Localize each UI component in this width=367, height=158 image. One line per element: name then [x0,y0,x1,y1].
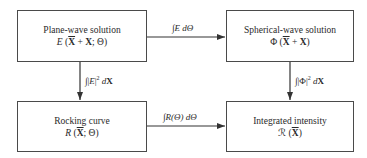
spherical-wave-solution-box: Spherical-wave solution Φ (X + X) [226,10,354,62]
box-title: Integrated intensity [253,115,327,127]
plane-wave-solution-box: Plane-wave solution E (X + X; Θ) [17,10,147,62]
box-formula: E (X + X; Θ) [57,36,107,48]
box-title: Rocking curve [54,115,110,127]
arrow-label-bottom: ∫R(Θ) dΘ [163,112,197,122]
box-title: Plane-wave solution [43,24,120,36]
arrow-label-left: ∫|E|2 dX [85,75,113,86]
box-formula: ℛ (X) [278,127,302,139]
arrow-label-top: ∫E dΘ [172,23,193,33]
box-formula: Φ (X + X) [270,36,310,48]
box-formula: R (X; Θ) [65,127,98,139]
box-title: Spherical-wave solution [244,24,336,36]
arrow-label-right: ∫|Φ|2 dX [295,75,324,86]
integrated-intensity-box: Integrated intensity ℛ (X) [226,101,354,152]
rocking-curve-box: Rocking curve R (X; Θ) [17,101,147,152]
